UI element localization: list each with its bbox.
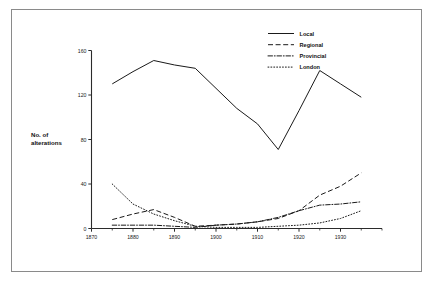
series-line-local [112, 61, 361, 150]
y-tick-label: 40 [81, 181, 87, 187]
line-chart: 04080120160 1870188018901900191019201930… [0, 0, 433, 283]
series-line-london [112, 184, 361, 227]
chart-figure: 04080120160 1870188018901900191019201930… [0, 0, 433, 283]
x-tick-label: 1870 [86, 234, 98, 240]
chart-legend: LocalRegionalProvincialLondon [268, 31, 327, 71]
legend-label-london: London [300, 64, 321, 70]
y-axis-title: No. of alterations [31, 131, 62, 146]
legend-label-provincial: Provincial [300, 53, 327, 59]
x-tick-label: 1900 [210, 234, 222, 240]
axes [92, 51, 383, 229]
y-axis-ticks: 04080120160 [78, 48, 92, 232]
y-tick-label: 0 [84, 226, 87, 232]
y-tick-label: 80 [81, 137, 87, 143]
y-axis-title-line1: No. of [31, 131, 49, 138]
y-tick-label: 120 [78, 92, 87, 98]
y-axis-title-line2: alterations [31, 139, 62, 146]
y-tick-label: 160 [78, 48, 87, 54]
legend-label-regional: Regional [300, 42, 324, 48]
x-tick-label: 1930 [335, 234, 347, 240]
x-tick-label: 1910 [252, 234, 264, 240]
x-tick-label: 1890 [169, 234, 181, 240]
x-axis-ticks: 1870188018901900191019201930 [86, 229, 382, 240]
legend-label-local: Local [300, 31, 315, 37]
x-tick-label: 1880 [127, 234, 139, 240]
data-series-group [112, 61, 361, 228]
x-tick-label: 1920 [293, 234, 305, 240]
series-line-provincial [112, 202, 361, 228]
series-line-regional [112, 173, 361, 226]
